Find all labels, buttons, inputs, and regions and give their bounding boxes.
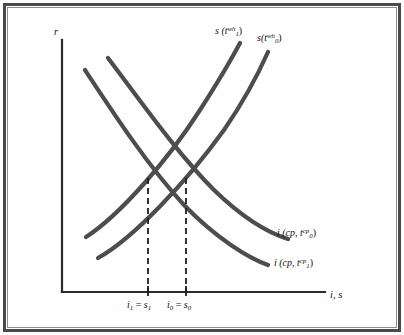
savings-t0-close: ) xyxy=(278,32,281,43)
savings-t1-close: ) xyxy=(239,25,242,36)
investment-t0-base: i (cp, t xyxy=(277,227,303,238)
y-axis-label: r xyxy=(54,27,58,38)
tick0-rhs-sub: 0 xyxy=(188,304,191,311)
investment-t1-close: ) xyxy=(310,257,313,268)
curve-investment-t1 xyxy=(85,70,268,265)
tick0-eq: = xyxy=(173,299,184,310)
investment-t1-base: i (cp, t xyxy=(274,257,300,268)
investment-t0-close: ) xyxy=(313,227,316,238)
tick1-rhs-sub: 1 xyxy=(148,304,151,311)
curve-label-savings-t0: s(twh0) xyxy=(257,33,282,45)
x-axis-label: i, s xyxy=(330,290,342,301)
tick1-eq: = xyxy=(133,299,144,310)
curve-label-investment-t1: i (cp, tcp1) xyxy=(274,258,313,270)
curve-investment-t0 xyxy=(108,58,288,239)
x-tick-label-equilibrium-0: i0 = s0 xyxy=(167,300,191,312)
savings-t1-base: s (t xyxy=(215,25,228,36)
curve-label-investment-t0: i (cp, tcp0) xyxy=(277,228,316,240)
savings-t0-sup: wh xyxy=(267,32,275,39)
figure-container: r i, s s (twh1) s(twh0) i (cp, tcp0) i (… xyxy=(0,0,404,335)
chart-canvas xyxy=(0,0,404,335)
savings-t0-base: s(t xyxy=(257,32,267,43)
curve-label-savings-t1: s (twh1) xyxy=(215,26,242,38)
x-tick-label-equilibrium-1: i1 = s1 xyxy=(127,300,151,312)
